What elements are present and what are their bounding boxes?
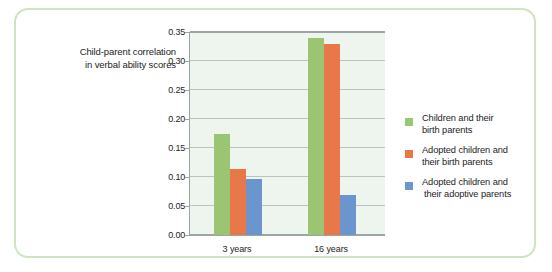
legend-label-line-2: their birth parents bbox=[422, 157, 544, 169]
gridline bbox=[190, 60, 385, 61]
bar bbox=[340, 195, 356, 235]
legend-entry[interactable]: Adopted children andtheir adoptive paren… bbox=[404, 177, 544, 200]
legend-entry[interactable]: Adopted children andtheir birth parents bbox=[404, 145, 544, 168]
y-tick-label: 0.35 bbox=[151, 27, 185, 37]
y-tick-label: 0.20 bbox=[151, 114, 185, 124]
legend-swatch-icon bbox=[405, 182, 413, 190]
bar bbox=[230, 169, 246, 235]
y-tick-label: 0.10 bbox=[151, 172, 185, 182]
gridline bbox=[190, 89, 385, 90]
y-tick-label: 0.25 bbox=[151, 85, 185, 95]
plot-area bbox=[189, 32, 385, 235]
x-category-label: 3 years bbox=[197, 244, 277, 254]
gridline bbox=[190, 31, 385, 32]
legend-label-line-1: Adopted children and bbox=[422, 177, 544, 189]
y-tick-label: 0.15 bbox=[151, 143, 185, 153]
legend-entry[interactable]: Children and theirbirth parents bbox=[404, 113, 544, 136]
bar bbox=[324, 44, 340, 235]
bar bbox=[246, 179, 262, 235]
bar bbox=[308, 38, 324, 235]
bar bbox=[214, 134, 230, 236]
y-axis-ticks: 0.000.050.100.150.200.250.300.35 bbox=[147, 32, 185, 235]
legend-label: Adopted children andtheir adoptive paren… bbox=[422, 177, 544, 200]
x-category-label: 16 years bbox=[291, 244, 371, 254]
y-tick-label: 0.30 bbox=[151, 56, 185, 66]
legend-label: Children and theirbirth parents bbox=[422, 113, 544, 136]
legend-swatch-icon bbox=[405, 150, 413, 158]
chart-legend: Children and theirbirth parentsAdopted c… bbox=[404, 113, 544, 209]
legend-label-line-2: birth parents bbox=[422, 125, 544, 137]
y-tick-label: 0.05 bbox=[151, 201, 185, 211]
legend-label-line-1: Children and their bbox=[422, 113, 544, 125]
gridline bbox=[190, 118, 385, 119]
figure-frame: Child-parent correlation in verbal abili… bbox=[14, 8, 536, 258]
legend-label: Adopted children andtheir birth parents bbox=[422, 145, 544, 168]
y-tick-label: 0.00 bbox=[151, 230, 185, 240]
legend-label-line-1: Adopted children and bbox=[422, 145, 544, 157]
legend-swatch-icon bbox=[405, 118, 413, 126]
legend-label-line-2: their adoptive parents bbox=[422, 189, 544, 201]
x-axis-line bbox=[189, 235, 385, 236]
